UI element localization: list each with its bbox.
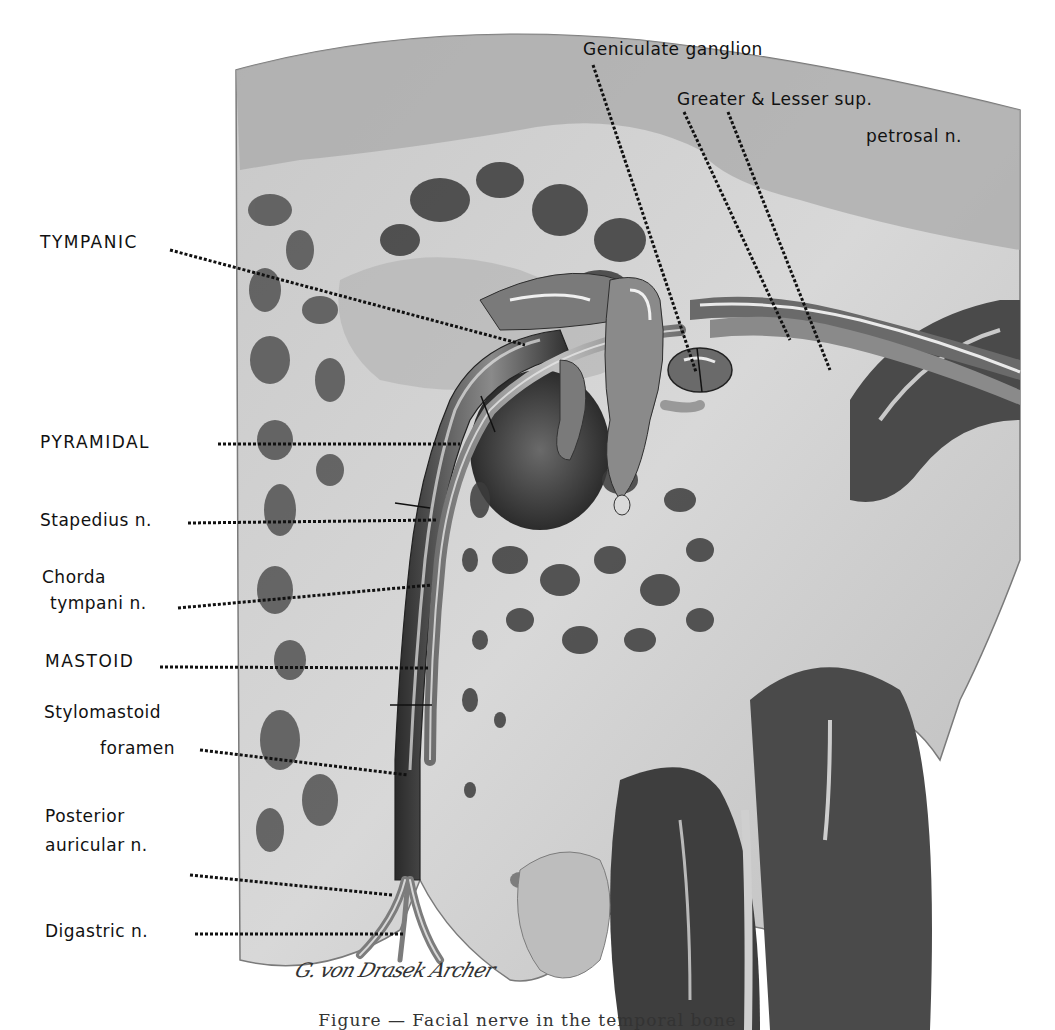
- label-stylomastoid-line2: foramen: [100, 737, 175, 759]
- label-pyramidal: PYRAMIDAL: [40, 431, 150, 453]
- label-digastric: Digastric n.: [45, 920, 148, 942]
- label-mastoid: MASTOID: [45, 650, 134, 672]
- temporal-bone-illustration: [0, 0, 1055, 1030]
- internal-carotid: [750, 667, 932, 1030]
- label-chorda-line1: Chorda: [42, 566, 106, 588]
- label-stapedius: Stapedius n.: [40, 509, 152, 531]
- label-geniculate-ganglion: Geniculate ganglion: [583, 38, 763, 60]
- label-posterior-line1: Posterior: [45, 805, 125, 827]
- label-chorda-line2: tympani n.: [50, 592, 147, 614]
- label-posterior-line2: auricular n.: [45, 834, 148, 856]
- label-tympanic: TYMPANIC: [40, 231, 138, 253]
- artist-signature: G. von Drasek Archer: [292, 958, 498, 982]
- label-greater-lesser-line1: Greater & Lesser sup.: [677, 88, 872, 110]
- label-greater-lesser-line2: petrosal n.: [866, 125, 962, 147]
- figure-caption: Figure — Facial nerve in the temporal bo…: [0, 1010, 1055, 1030]
- label-stylomastoid-line1: Stylomastoid: [44, 701, 161, 723]
